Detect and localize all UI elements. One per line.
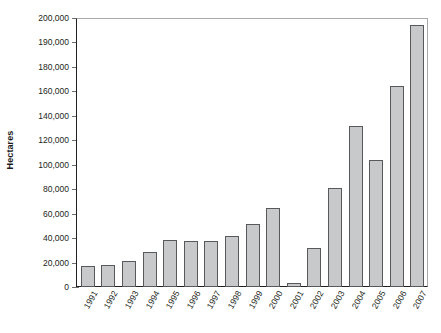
x-axis-tick-labels: 1991199219931994199519961997199819992000… [78,289,428,333]
x-axis-tick-label: 2006 [390,289,408,310]
bar[interactable] [204,241,218,287]
x-axis-tick-label: 1999 [246,289,264,310]
y-axis-tick-label: 20,000 [14,258,69,268]
x-axis-tick-label: 1994 [143,289,161,310]
bar-slot [386,18,407,287]
y-axis-tick-label: 100,000 [14,160,69,170]
bar-slot [78,18,99,287]
bar[interactable] [184,241,198,287]
x-axis-tick-label: 1996 [184,289,202,310]
bar[interactable] [349,126,363,287]
x-axis-tick-label: 1992 [102,289,120,310]
bar-slot [242,18,263,287]
bar[interactable] [143,252,157,287]
y-axis-tick-label: 200,000 [14,13,69,23]
y-axis-tick-label: 180,000 [14,62,69,72]
y-axis-tick-mark [72,287,79,288]
x-axis-tick-label: 2001 [287,289,305,310]
y-axis-tick-label: 0 [14,282,69,292]
bar-slot [407,18,428,287]
bar-chart: Hectares 020,00040,00060,00080,000100,00… [0,0,441,333]
bar-slot [201,18,222,287]
bar-slot [263,18,284,287]
bar[interactable] [163,240,177,287]
bar-slot [160,18,181,287]
bars-container [78,18,428,287]
y-axis-tick-label: 80,000 [14,184,69,194]
bar-slot [139,18,160,287]
bar[interactable] [369,160,383,287]
bar[interactable] [225,236,239,287]
y-axis-tick-label: 60,000 [14,209,69,219]
bar-slot [283,18,304,287]
x-axis-tick-label: 2000 [267,289,285,310]
x-axis-tick-label: 2002 [308,289,326,310]
bar[interactable] [390,86,404,287]
y-axis-tick-label: 190,000 [14,37,69,47]
y-axis-tick-label: 40,000 [14,233,69,243]
bar-slot [325,18,346,287]
bar[interactable] [287,283,301,287]
y-axis-tick-label: 160,000 [14,86,69,96]
y-axis-tick-label: 140,000 [14,111,69,121]
x-axis-tick-label: 1993 [123,289,141,310]
x-axis-tick-label: 2007 [411,289,429,310]
x-axis-tick-label: 1995 [164,289,182,310]
x-axis-tick-label: 1997 [205,289,223,310]
x-axis-tick-label: 1998 [226,289,244,310]
bar[interactable] [266,208,280,287]
bar-slot [98,18,119,287]
y-axis-tick-label: 120,000 [14,135,69,145]
x-axis-tick-label: 1991 [81,289,99,310]
bar-slot [304,18,325,287]
bar[interactable] [410,25,424,287]
y-axis-tick-labels: 020,00040,00060,00080,000100,000120,0001… [14,18,69,287]
x-axis-tick-label: 2004 [349,289,367,310]
bar[interactable] [81,266,95,287]
bar[interactable] [101,265,115,287]
x-axis-tick-label: 2003 [328,289,346,310]
bar-slot [345,18,366,287]
bar-slot [222,18,243,287]
bar-slot [366,18,387,287]
bar[interactable] [122,261,136,287]
x-axis-tick-label: 2005 [370,289,388,310]
bar[interactable] [328,188,342,287]
bar[interactable] [246,224,260,287]
bar-slot [119,18,140,287]
bar-slot [181,18,202,287]
bar[interactable] [307,248,321,287]
